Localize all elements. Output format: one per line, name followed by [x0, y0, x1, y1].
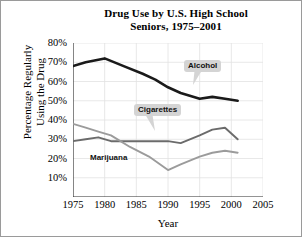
label-marijuana: Marijuana [90, 153, 127, 162]
x-tick-label: 2005 [246, 200, 280, 211]
chart-title-line1: Drug Use by U.S. High School [53, 7, 299, 20]
y-tick-label: 50% [33, 96, 67, 107]
x-tick-label: 1980 [88, 200, 122, 211]
chart-figure: Drug Use by U.S. High School Seniors, 19… [0, 0, 302, 237]
x-axis-title: Year [73, 217, 263, 229]
x-tick-label: 1995 [183, 200, 217, 211]
x-tick-label: 1975 [56, 200, 90, 211]
x-tick-label: 2000 [214, 200, 248, 211]
y-tick-label: 40% [33, 115, 67, 126]
callout-tail-alcohol [189, 71, 219, 101]
callout-tail-shape [193, 71, 202, 85]
y-tick-label: 70% [33, 57, 67, 68]
y-tick-label: 20% [33, 154, 67, 165]
x-tick-label: 1990 [151, 200, 185, 211]
callout-tail-shape [146, 115, 156, 131]
chart-title: Drug Use by U.S. High School Seniors, 19… [53, 7, 299, 32]
y-tick-label: 80% [33, 38, 67, 49]
y-tick-label: 10% [33, 173, 67, 184]
x-tick-label: 1985 [119, 200, 153, 211]
y-tick-label: 30% [33, 134, 67, 145]
chart-title-line2: Seniors, 1975–2001 [53, 20, 299, 33]
y-tick-label: 60% [33, 77, 67, 88]
callout-tail-cigarettes [145, 115, 175, 145]
